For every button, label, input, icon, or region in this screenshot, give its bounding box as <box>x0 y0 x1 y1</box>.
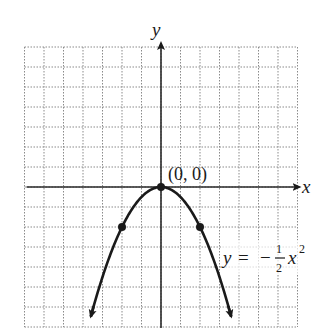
vertex-label: (0, 0) <box>168 164 207 185</box>
point-marker <box>118 223 126 231</box>
curve-arrow-left-icon <box>91 306 94 317</box>
curve-arrow-right-icon <box>228 306 231 317</box>
y-axis-label: y <box>150 19 161 40</box>
fraction-denominator: 2 <box>276 261 282 275</box>
parabola-graph: x y (0, 0) y = − 1 2 x 2 <box>0 0 334 336</box>
equation-equals: = <box>238 247 249 268</box>
point-marker <box>157 183 165 191</box>
equation-label: y = − 1 2 x 2 <box>221 240 309 275</box>
fraction-numerator: 1 <box>276 242 282 256</box>
equation-exponent: 2 <box>299 242 305 256</box>
equation-lhs: y <box>221 247 232 268</box>
x-axis-label: x <box>301 176 311 197</box>
equation-sign: − <box>260 247 271 268</box>
point-marker <box>196 223 204 231</box>
plot-area: x y (0, 0) y = − 1 2 x 2 <box>0 0 334 336</box>
equation-variable: x <box>287 247 297 268</box>
